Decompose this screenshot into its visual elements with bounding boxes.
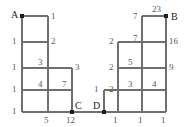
edge-weight-right-top-7: 7: [133, 12, 138, 21]
edges-group: [22, 16, 166, 112]
diagram-canvas: AC1121331471512BD72372165292341111: [0, 0, 188, 127]
edge-weight-left-row2-left-1: 1: [12, 37, 17, 46]
edge-weight-left-row4-right-7: 7: [62, 80, 67, 89]
edge-weight-left-row3-right-3: 3: [75, 63, 80, 72]
edge-weight-right-bottom-1a: 1: [113, 116, 118, 125]
edge-weight-left-row5-left-1: 1: [12, 107, 17, 116]
point-label-left-A: A: [11, 10, 18, 20]
vertex-point-C: [70, 110, 74, 114]
edge-weight-left-bottom-5: 5: [44, 116, 49, 125]
edge-weight-left-row3-mid-3: 3: [38, 58, 43, 67]
edge-weight-right-r2-2: 2: [109, 37, 114, 46]
edge-weight-right-r3-9: 9: [169, 63, 174, 72]
edge-weight-right-r2-7: 7: [133, 34, 138, 43]
edge-weight-right-r2-16: 16: [169, 37, 178, 46]
edge-weight-right-top-23: 23: [152, 5, 161, 14]
edge-weight-right-r3-2: 2: [109, 63, 114, 72]
edge-weight-left-row3-left-1: 1: [12, 63, 17, 72]
edge-weight-left-row2-right-2: 2: [51, 37, 56, 46]
edge-weight-right-bottom-1b: 1: [138, 116, 143, 125]
point-label-right-D: D: [93, 101, 100, 111]
edge-weight-right-r4-4: 4: [152, 80, 157, 89]
edge-weight-left-bottom-12: 12: [66, 116, 75, 125]
edge-weight-right-r4-2: 2: [109, 85, 114, 94]
vertex-point-D: [102, 110, 106, 114]
vertex-point-B: [164, 14, 168, 18]
point-label-left-C: C: [75, 101, 82, 111]
edge-weight-right-r3-5: 5: [128, 58, 133, 67]
edge-weight-right-r4-3: 3: [128, 80, 133, 89]
point-label-right-B: B: [171, 12, 178, 22]
edge-weight-left-row4-mid-4: 4: [38, 80, 43, 89]
edge-weight-left-row4-left-1: 1: [12, 85, 17, 94]
vertex-point-A: [20, 14, 24, 18]
edge-weight-left-top-1: 1: [51, 12, 56, 21]
edge-weight-right-left-1: 1: [94, 85, 99, 94]
edge-weight-right-bottom-1c: 1: [161, 116, 166, 125]
